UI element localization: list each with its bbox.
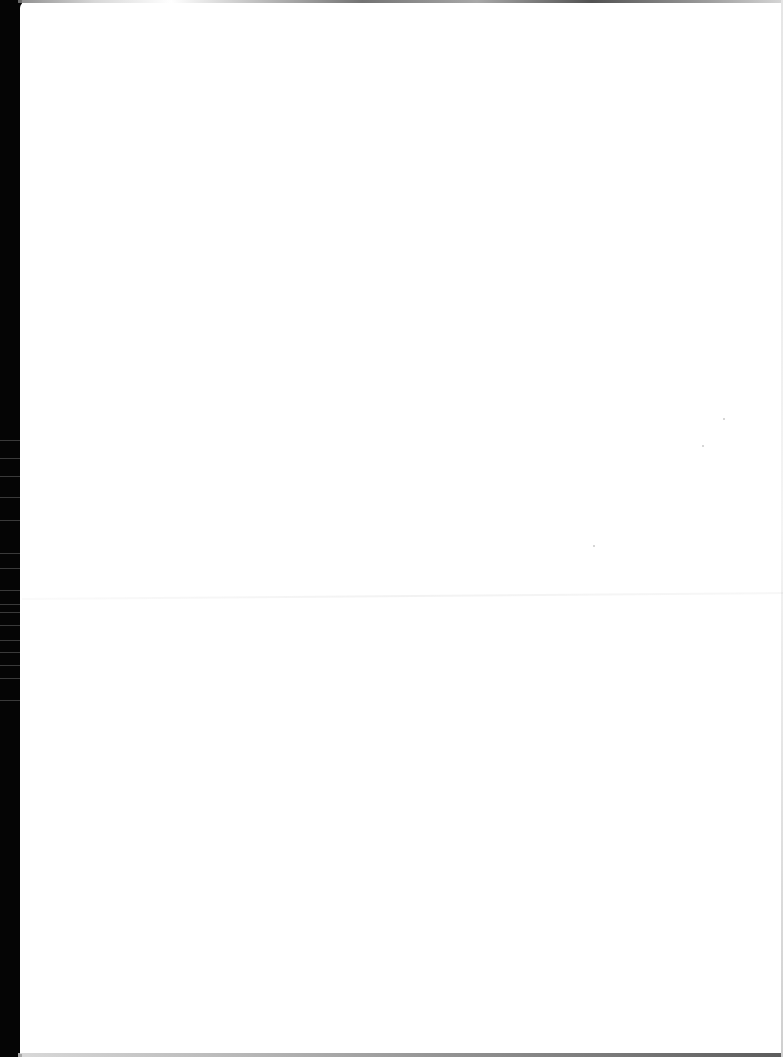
- dust-speck: [593, 545, 595, 547]
- dust-speck: [702, 445, 704, 447]
- scanner-edge-strip: [0, 0, 22, 1057]
- top-edge-shadow: [18, 0, 783, 3]
- bottom-edge-shadow: [18, 1053, 783, 1057]
- dust-speck: [723, 418, 725, 420]
- blank-page: [20, 2, 782, 1054]
